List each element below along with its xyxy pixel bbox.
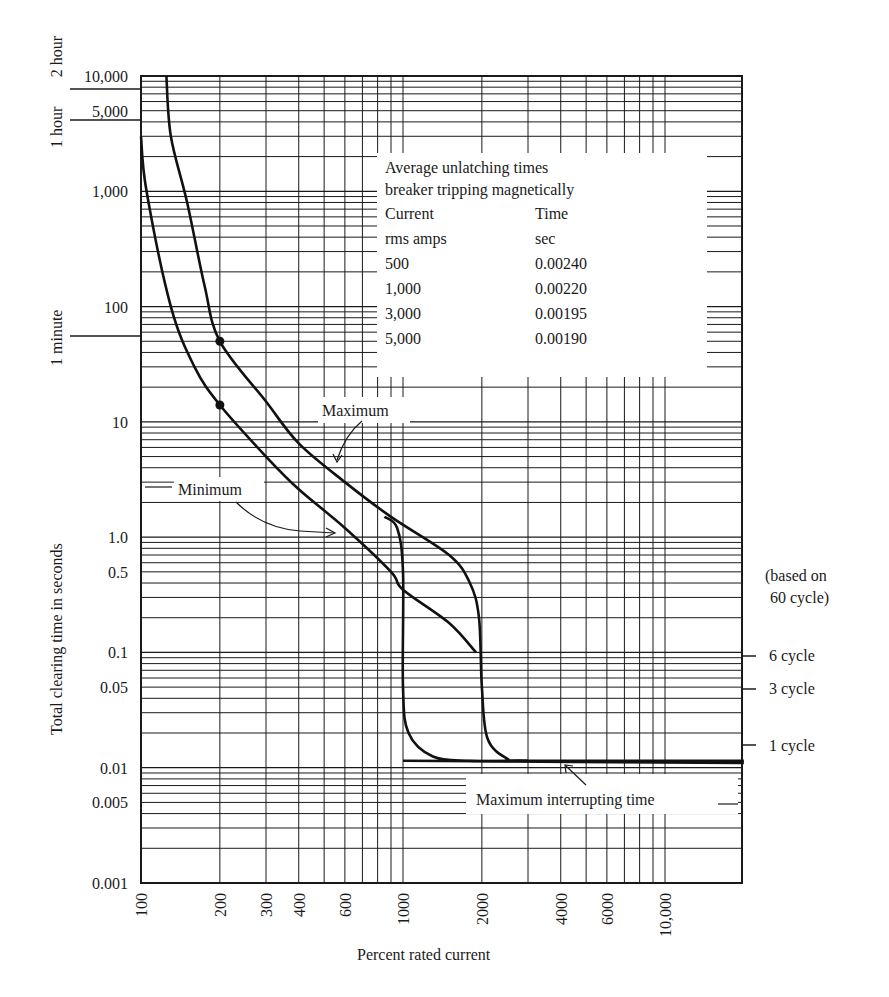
x-tick-label: 400 bbox=[291, 893, 308, 917]
current-value: 3,000 bbox=[385, 303, 421, 325]
x-tick-label: 300 bbox=[258, 893, 275, 917]
x-tick-label: 2000 bbox=[474, 893, 491, 925]
x-tick-label: 4000 bbox=[553, 893, 570, 925]
y-tick-label: 5,000 bbox=[92, 103, 128, 120]
y-tick-label: 10 bbox=[112, 414, 128, 431]
time-value: 0.00195 bbox=[535, 303, 587, 325]
current-value: 5,000 bbox=[385, 328, 421, 350]
data-point-marker bbox=[215, 401, 224, 410]
y-tick-label: 100 bbox=[104, 299, 128, 316]
unit-sec: sec bbox=[535, 228, 555, 250]
time-value: 0.00220 bbox=[535, 278, 587, 300]
max-interrupt-label: Maximum interrupting time bbox=[476, 791, 655, 809]
x-tick-label: 600 bbox=[337, 893, 354, 917]
x-tick-label: 6000 bbox=[599, 893, 616, 925]
y-tick-label: 0.5 bbox=[108, 564, 128, 581]
six-cycle-label: 6 cycle bbox=[769, 647, 815, 665]
unit-rms-amps: rms amps bbox=[385, 228, 447, 250]
unlatching-times-table: Average unlatching times breaker trippin… bbox=[377, 153, 707, 377]
table-header-row: Current Time bbox=[385, 203, 705, 225]
y-tick-label: 0.005 bbox=[92, 794, 128, 811]
x-tick-label: 10,000 bbox=[657, 893, 674, 937]
y-tick-label: 0.001 bbox=[92, 875, 128, 892]
x-tick-label: 100 bbox=[133, 893, 150, 917]
x-tick-label: 1000 bbox=[395, 893, 412, 925]
curve-minimum-magnetic-trip-at-1000- bbox=[385, 517, 528, 761]
y-tick-label: 1.0 bbox=[108, 529, 128, 546]
y-tick-label: 0.05 bbox=[100, 679, 128, 696]
data-point-marker bbox=[215, 337, 224, 346]
time-value: 0.00240 bbox=[535, 253, 587, 275]
table-title: Average unlatching times breaker trippin… bbox=[385, 157, 705, 201]
table-row: 1,000 0.00220 bbox=[385, 278, 705, 300]
current-value: 1,000 bbox=[385, 278, 421, 300]
one-minute-label: 1 minute bbox=[48, 310, 65, 366]
one-hour-label: 1 hour bbox=[48, 106, 65, 148]
x-axis-title: Percent rated current bbox=[357, 946, 491, 963]
maximum-label: Maximum bbox=[322, 402, 389, 419]
table-units-row: rms amps sec bbox=[385, 228, 705, 250]
y-axis-title: Total clearing time in seconds bbox=[48, 543, 66, 735]
y-tick-label: 10,000 bbox=[84, 68, 128, 85]
table-row: 5,000 0.00190 bbox=[385, 328, 705, 350]
y-tick-label: 1,000 bbox=[92, 183, 128, 200]
y-tick-label: 0.01 bbox=[100, 760, 128, 777]
current-value: 500 bbox=[385, 253, 409, 275]
minimum-label: Minimum bbox=[178, 481, 243, 498]
table-title-line-1: Average unlatching times bbox=[385, 157, 705, 179]
table-row: 500 0.00240 bbox=[385, 253, 705, 275]
three-cycle-label: 3 cycle bbox=[769, 680, 815, 698]
y-tick-label: 0.1 bbox=[108, 644, 128, 661]
based-on-label-1: (based on bbox=[765, 567, 827, 585]
header-time: Time bbox=[535, 203, 568, 225]
one-cycle-label: 1 cycle bbox=[769, 737, 815, 755]
x-tick-labels: 100200300400600100020004000600010,000 bbox=[133, 893, 674, 937]
x-tick-label: 200 bbox=[212, 893, 229, 917]
table-title-line-2: breaker tripping magnetically bbox=[385, 179, 705, 201]
table-row: 3,000 0.00195 bbox=[385, 303, 705, 325]
chart-canvas: 10,0005,0001,000100101.00.50.10.050.010.… bbox=[0, 0, 889, 997]
time-value: 0.00190 bbox=[535, 328, 587, 350]
two-hour-label: 2 hour bbox=[48, 35, 65, 77]
y-tick-labels: 10,0005,0001,000100101.00.50.10.050.010.… bbox=[84, 68, 128, 892]
based-on-label-2: 60 cycle) bbox=[770, 589, 829, 607]
header-current: Current bbox=[385, 203, 434, 225]
